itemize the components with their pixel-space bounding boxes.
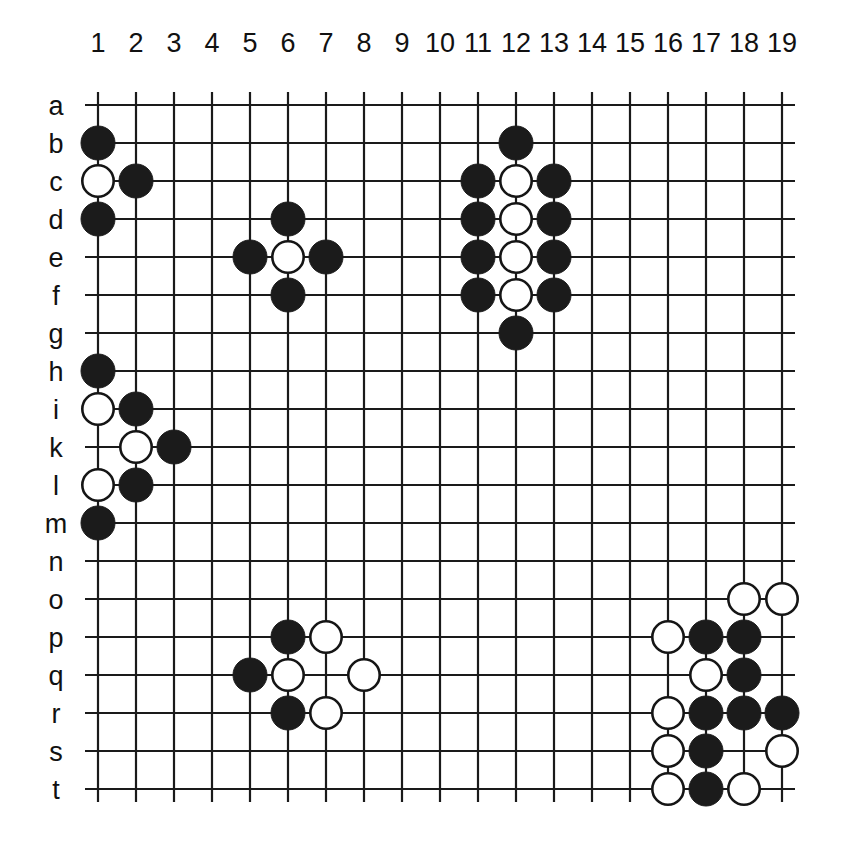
column-label: 18 xyxy=(729,28,759,58)
row-label: t xyxy=(52,775,60,805)
row-label: d xyxy=(48,205,63,235)
black-stone[interactable] xyxy=(81,126,115,160)
row-label: p xyxy=(48,623,63,653)
white-stone[interactable] xyxy=(652,735,683,766)
white-stone[interactable] xyxy=(728,583,759,614)
black-stone[interactable] xyxy=(81,354,115,388)
black-stone[interactable] xyxy=(233,658,267,692)
black-stone[interactable] xyxy=(461,164,495,198)
column-label: 12 xyxy=(501,28,531,58)
column-label: 1 xyxy=(90,28,105,58)
row-label: q xyxy=(48,661,63,691)
black-stone[interactable] xyxy=(537,202,571,236)
black-stone[interactable] xyxy=(461,278,495,312)
row-label: f xyxy=(52,281,60,311)
white-stone[interactable] xyxy=(652,697,683,728)
black-stone[interactable] xyxy=(689,734,723,768)
white-stone[interactable] xyxy=(500,279,531,310)
white-stone[interactable] xyxy=(348,659,379,690)
white-stone[interactable] xyxy=(728,773,759,804)
white-stone[interactable] xyxy=(500,165,531,196)
column-label: 10 xyxy=(425,28,455,58)
white-stone[interactable] xyxy=(652,773,683,804)
column-label: 7 xyxy=(318,28,333,58)
row-label: r xyxy=(52,699,61,729)
white-stone[interactable] xyxy=(82,165,113,196)
column-label: 19 xyxy=(767,28,797,58)
row-label: b xyxy=(48,129,63,159)
row-label: e xyxy=(48,243,63,273)
black-stone[interactable] xyxy=(271,202,305,236)
row-label: i xyxy=(53,395,59,425)
black-stone[interactable] xyxy=(537,164,571,198)
white-stone[interactable] xyxy=(652,621,683,652)
column-label: 15 xyxy=(615,28,645,58)
column-label: 14 xyxy=(577,28,607,58)
black-stone[interactable] xyxy=(271,696,305,730)
black-stone[interactable] xyxy=(689,772,723,806)
black-stone[interactable] xyxy=(689,620,723,654)
column-label: 9 xyxy=(394,28,409,58)
black-stone[interactable] xyxy=(233,240,267,274)
white-stone[interactable] xyxy=(272,659,303,690)
column-label: 17 xyxy=(691,28,721,58)
black-stone[interactable] xyxy=(119,164,153,198)
white-stone[interactable] xyxy=(272,241,303,272)
row-label: a xyxy=(48,91,64,121)
white-stone[interactable] xyxy=(500,241,531,272)
white-stone[interactable] xyxy=(310,697,341,728)
column-label: 6 xyxy=(280,28,295,58)
column-label: 13 xyxy=(539,28,569,58)
black-stone[interactable] xyxy=(119,468,153,502)
black-stone[interactable] xyxy=(461,202,495,236)
column-label: 11 xyxy=(464,28,492,58)
white-stone[interactable] xyxy=(120,431,151,462)
column-label: 4 xyxy=(204,28,219,58)
black-stone[interactable] xyxy=(81,202,115,236)
white-stone[interactable] xyxy=(82,469,113,500)
black-stone[interactable] xyxy=(81,506,115,540)
column-label: 3 xyxy=(166,28,181,58)
black-stone[interactable] xyxy=(499,316,533,350)
row-label: l xyxy=(53,471,59,501)
white-stone[interactable] xyxy=(82,393,113,424)
black-stone[interactable] xyxy=(461,240,495,274)
white-stone[interactable] xyxy=(500,203,531,234)
row-label: c xyxy=(49,167,63,197)
row-label: m xyxy=(45,509,68,539)
black-stone[interactable] xyxy=(157,430,191,464)
white-stone[interactable] xyxy=(310,621,341,652)
black-stone[interactable] xyxy=(727,696,761,730)
go-board-diagram: 12345678910111213141516171819 abcdefghik… xyxy=(0,0,850,851)
black-stone[interactable] xyxy=(537,240,571,274)
row-label: n xyxy=(48,547,63,577)
black-stone[interactable] xyxy=(537,278,571,312)
column-label: 5 xyxy=(242,28,257,58)
row-label: s xyxy=(49,737,63,767)
row-label: g xyxy=(48,319,63,349)
black-stone[interactable] xyxy=(271,278,305,312)
white-stone[interactable] xyxy=(690,659,721,690)
black-stone[interactable] xyxy=(727,658,761,692)
white-stone[interactable] xyxy=(766,735,797,766)
row-label: o xyxy=(48,585,63,615)
black-stone[interactable] xyxy=(727,620,761,654)
black-stone[interactable] xyxy=(499,126,533,160)
row-label: h xyxy=(48,357,63,387)
black-stone[interactable] xyxy=(689,696,723,730)
row-label: k xyxy=(49,433,63,463)
white-stone[interactable] xyxy=(766,583,797,614)
column-label: 16 xyxy=(653,28,683,58)
column-label: 2 xyxy=(128,28,143,58)
black-stone[interactable] xyxy=(119,392,153,426)
board-background xyxy=(0,0,850,851)
black-stone[interactable] xyxy=(271,620,305,654)
column-label: 8 xyxy=(356,28,371,58)
go-board-svg: 12345678910111213141516171819 abcdefghik… xyxy=(0,0,850,851)
black-stone[interactable] xyxy=(309,240,343,274)
black-stone[interactable] xyxy=(765,696,799,730)
